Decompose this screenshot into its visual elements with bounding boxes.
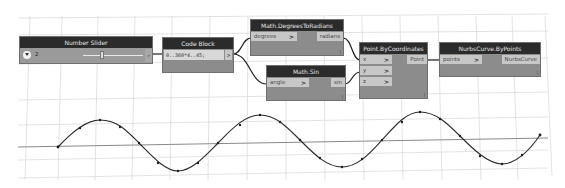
output-port-nurbscurve[interactable]: NurbsCurve xyxy=(502,55,540,64)
curve-control-points xyxy=(57,111,542,172)
node-title: Code Block xyxy=(163,38,233,49)
chevron-down-icon[interactable] xyxy=(23,51,31,59)
dynamo-canvas[interactable]: Number Slider 2 > Code Block 0..360*4..4… xyxy=(0,0,565,188)
port-label: z xyxy=(363,78,366,84)
nurbs-curve-by-points-node[interactable]: NurbsCurve.ByPoints points > NurbsCurve … xyxy=(440,43,540,76)
wire-codeblock-to-degrees xyxy=(233,38,251,54)
input-port-points[interactable]: points > xyxy=(440,55,482,64)
chevron-right-icon: > xyxy=(289,32,294,41)
point-by-coordinates-node[interactable]: Point.ByCoordinates x > Point y > z > | xyxy=(360,43,427,98)
port-label: y xyxy=(363,67,366,73)
port-label: degrees xyxy=(254,33,276,39)
chevron-right-icon: > xyxy=(384,55,389,64)
output-port[interactable]: > xyxy=(225,50,232,60)
node-title: Math.Sin xyxy=(267,66,345,77)
node-title: Point.ByCoordinates xyxy=(360,43,427,54)
lacing-indicator[interactable]: | xyxy=(342,94,343,99)
degrees-to-radians-node[interactable]: Math.DegreesToRadians degrees > radians … xyxy=(251,20,343,55)
chevron-right-icon: > xyxy=(474,55,479,64)
output-port-radians[interactable]: radians xyxy=(317,32,343,41)
code-block-node[interactable]: Code Block 0..360*4..45; > xyxy=(163,38,233,72)
port-label: points xyxy=(443,56,460,62)
chevron-right-icon: > xyxy=(384,66,389,75)
lacing-indicator[interactable]: | xyxy=(424,92,425,97)
chevron-right-icon: > xyxy=(384,77,389,86)
input-port-degrees[interactable]: degrees > xyxy=(251,32,297,41)
input-port-z[interactable]: z > xyxy=(360,77,392,86)
slider-thumb[interactable] xyxy=(100,51,104,59)
slider-track[interactable] xyxy=(83,55,143,56)
slider-body: 2 > xyxy=(20,48,152,63)
output-port-sin[interactable]: sin xyxy=(331,78,345,87)
code-input[interactable]: 0..360*4..45; xyxy=(164,50,224,60)
lacing-indicator[interactable]: | xyxy=(340,49,341,54)
wire-sin-to-y xyxy=(345,72,360,84)
wire-codeblock-to-sin xyxy=(233,54,267,84)
port-label: angle xyxy=(270,79,285,85)
input-port-x[interactable]: x > xyxy=(360,55,392,64)
node-title: Math.DegreesToRadians xyxy=(251,20,343,31)
port-label: x xyxy=(363,56,366,62)
wire-radians-to-x xyxy=(343,38,360,60)
slider-value[interactable]: 2 xyxy=(35,51,39,57)
math-sin-node[interactable]: Math.Sin angle > sin | xyxy=(267,66,345,100)
node-title: Number Slider xyxy=(20,37,152,48)
x-axis-line xyxy=(18,138,548,147)
chevron-right-icon: > xyxy=(301,78,306,87)
output-port-point[interactable]: Point xyxy=(407,55,427,64)
number-slider-node[interactable]: Number Slider 2 > xyxy=(20,37,152,63)
output-port[interactable]: > xyxy=(145,49,152,62)
lacing-indicator[interactable]: | xyxy=(537,70,538,75)
input-port-y[interactable]: y > xyxy=(360,66,392,75)
input-port-angle[interactable]: angle > xyxy=(267,78,309,87)
node-title: NurbsCurve.ByPoints xyxy=(440,43,540,54)
